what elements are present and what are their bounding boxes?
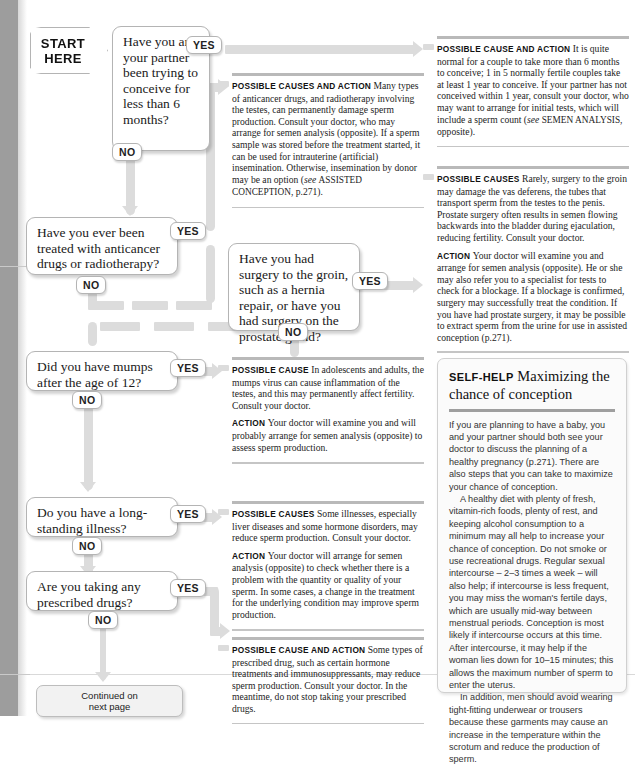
q4-no-label: NO xyxy=(79,394,95,406)
self-help-body: If you are planning to have a baby, you … xyxy=(449,419,615,766)
panel-rule-bottom xyxy=(437,351,629,353)
start-here-marker: START HERE xyxy=(30,27,108,74)
q6-no-tag[interactable]: NO xyxy=(88,611,118,629)
panel-block-smallcaps: SEMEN ANALYSIS xyxy=(542,115,620,125)
continued-next-page-box[interactable]: Continued on next page xyxy=(36,685,183,717)
self-help-title: SELF-HELP Maximizing the chance of conce… xyxy=(449,368,615,403)
panel-block-text: ACTION Your doctor will examine you and … xyxy=(232,417,424,453)
panel-rule-bottom xyxy=(232,629,424,631)
q4-no-tag[interactable]: NO xyxy=(72,391,102,409)
q3-yes-tag[interactable]: YES xyxy=(352,272,388,290)
panel-rule-bottom xyxy=(232,462,424,464)
self-help-paragraph: A healthy diet with plenty of fresh, vit… xyxy=(449,493,615,692)
connector-q1-yes xyxy=(225,45,415,54)
start-label-line2: HERE xyxy=(44,51,82,66)
panel-block-lead: POSSIBLE CAUSE xyxy=(232,365,309,375)
q2-yes-tag[interactable]: YES xyxy=(170,222,206,240)
question-box-anticancer[interactable]: Have you ever been treated with anticanc… xyxy=(26,217,178,275)
page-gutter-shadow xyxy=(0,0,18,716)
q3-no-tag[interactable]: NO xyxy=(278,323,308,341)
panel-block-tail: , p.271). xyxy=(291,186,323,197)
connector-q2-no-up xyxy=(206,245,215,303)
q2-no-tag[interactable]: NO xyxy=(76,276,106,294)
self-help-paragraph: If you are planning to have a baby, you … xyxy=(449,419,615,493)
q6-no-label: NO xyxy=(95,614,111,626)
panel-block-lead: POSSIBLE CAUSES xyxy=(232,509,315,519)
connector-q3-no-h2 xyxy=(154,322,194,331)
q4-yes-tag[interactable]: YES xyxy=(170,359,206,377)
arrowhead-q1-yes xyxy=(413,41,423,57)
q5-yes-tag[interactable]: YES xyxy=(170,505,206,523)
panel-rule-top xyxy=(437,36,629,39)
panel-block-lead: POSSIBLE CAUSES xyxy=(437,174,520,184)
panel-rule-bottom xyxy=(437,146,629,148)
panel-block-text: POSSIBLE CAUSES Some illnesses, especial… xyxy=(232,508,424,544)
q5-yes-label: YES xyxy=(177,508,199,520)
panel-rule-top xyxy=(232,501,424,504)
panel-rule-top xyxy=(437,166,629,169)
panel-connector-dot xyxy=(218,81,229,87)
q1-no-tag[interactable]: NO xyxy=(112,143,142,161)
arrowhead-q3-yes xyxy=(413,277,423,293)
panel-surgery: POSSIBLE CAUSES Rarely, surgery to the g… xyxy=(437,166,629,353)
connector-q4-no-vert xyxy=(84,405,93,490)
q3-yes-label: YES xyxy=(359,275,381,287)
arrowhead-q6-no xyxy=(95,672,111,682)
panel-block-text: POSSIBLE CAUSE AND ACTION It is quite no… xyxy=(437,43,629,138)
panel-anticancer: POSSIBLE CAUSES AND ACTION Many types of… xyxy=(232,73,424,208)
panel-block-italic: see xyxy=(527,114,539,125)
question-text: Are you taking any prescribed drugs? xyxy=(37,579,141,610)
question-text: Do you have a long-standing illness? xyxy=(37,505,147,536)
q4-yes-label: YES xyxy=(177,362,199,374)
q1-yes-label: YES xyxy=(193,39,215,51)
connector-q2-no-h3 xyxy=(176,301,212,310)
panel-block-text: POSSIBLE CAUSE In adolescents and adults… xyxy=(232,364,424,411)
panel-illness: POSSIBLE CAUSES Some illnesses, especial… xyxy=(232,501,424,631)
panel-block-text: POSSIBLE CAUSES AND ACTION Many types of… xyxy=(232,80,424,199)
question-box-long-standing-illness[interactable]: Do you have a long-standing illness? xyxy=(26,497,178,537)
panel-block-lead: POSSIBLE CAUSE AND ACTION xyxy=(437,44,570,54)
panel-block-lead: POSSIBLE CAUSE AND ACTION xyxy=(232,645,365,655)
panel-block-text: ACTION Your doctor will examine you and … xyxy=(437,250,629,344)
question-box-prescribed-drugs[interactable]: Are you taking any prescribed drugs? xyxy=(26,571,178,611)
connector-q6-yes-vert xyxy=(210,587,219,632)
panel-mumps: POSSIBLE CAUSE In adolescents and adults… xyxy=(232,357,424,464)
q2-yes-label: YES xyxy=(177,225,199,237)
q1-no-label: NO xyxy=(119,146,135,158)
panel-block-lead: POSSIBLE CAUSES AND ACTION xyxy=(232,81,371,91)
panel-block-italic: see xyxy=(304,174,316,185)
self-help-box: SELF-HELP Maximizing the chance of conce… xyxy=(437,358,627,693)
connector-q3-no-down xyxy=(88,322,97,346)
panel-connector-dot xyxy=(423,174,434,180)
question-text: Did you have mumps after the age of 12? xyxy=(37,359,153,390)
panel-connector-dot xyxy=(423,44,434,50)
q5-no-label: NO xyxy=(79,540,95,552)
question-text: Have you ever been treated with anticanc… xyxy=(37,225,160,271)
q6-yes-tag[interactable]: YES xyxy=(170,579,206,597)
panel-block-text: ACTION Your doctor will arrange for seme… xyxy=(232,550,424,621)
self-help-rule xyxy=(449,409,615,412)
panel-rule-bottom xyxy=(232,723,424,725)
q1-yes-tag[interactable]: YES xyxy=(186,36,222,54)
panel-block-lead: ACTION xyxy=(437,251,470,261)
arrowhead-q6-yes xyxy=(220,623,230,639)
question-box-mumps[interactable]: Did you have mumps after the age of 12? xyxy=(26,351,178,391)
question-box-groin-prostate-surgery[interactable]: Have you had surgery to the groin, such … xyxy=(228,243,360,331)
continued-line1: Continued on xyxy=(81,690,138,702)
continued-line2: next page xyxy=(89,701,131,713)
start-label-line1: START xyxy=(41,36,85,51)
connector-q2-no-h1 xyxy=(88,301,124,310)
self-help-kicker: SELF-HELP xyxy=(449,371,514,383)
q6-yes-label: YES xyxy=(177,582,199,594)
panel-rule-top xyxy=(232,73,424,76)
panel-connector-dot xyxy=(218,365,229,371)
panel-rule-bottom xyxy=(232,207,424,209)
panel-connector-dot xyxy=(218,645,229,651)
panel-block-text: POSSIBLE CAUSES Rarely, surgery to the g… xyxy=(437,173,629,244)
panel-rule-top xyxy=(232,637,424,640)
panel-connector-dot xyxy=(218,509,229,515)
panel-6-months: POSSIBLE CAUSE AND ACTION It is quite no… xyxy=(437,36,629,147)
q5-no-tag[interactable]: NO xyxy=(72,537,102,555)
panel-rule-top xyxy=(232,357,424,360)
